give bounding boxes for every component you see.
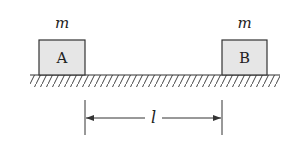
distance-label: l [151,108,156,127]
distance-dimension: l [85,100,222,135]
block-b-mass-label: m [237,14,251,32]
ground-surface [30,75,280,87]
physics-diagram: A m B m l [0,0,301,155]
block-a: A m [39,14,85,75]
block-a-label: A [56,49,68,67]
block-b: B m [222,14,267,75]
block-a-mass-label: m [55,14,69,32]
block-b-label: B [239,49,250,67]
